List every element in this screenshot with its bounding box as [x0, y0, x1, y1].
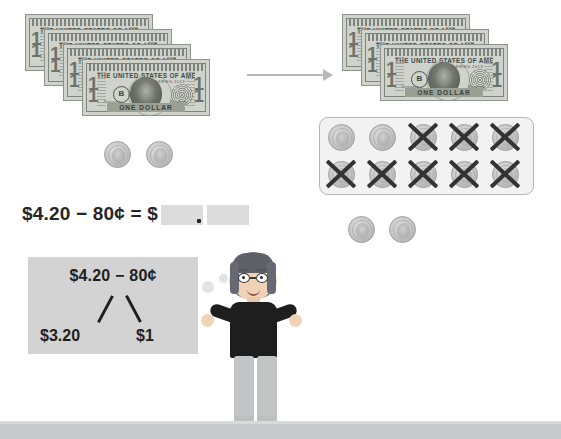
- leg-left: [234, 356, 254, 421]
- dime-coin: [348, 216, 375, 243]
- hand-left: [201, 314, 214, 327]
- dime-coin: [104, 141, 131, 168]
- cross-out-mark: [324, 157, 358, 191]
- torso: [230, 302, 277, 358]
- dollar-bill: THE UNITED STATES OF AMERICA B 1 1 1 1 B…: [380, 44, 508, 101]
- hair-side: [267, 262, 276, 294]
- cross-out-mark: [488, 157, 522, 191]
- eyebrow: [238, 269, 249, 271]
- eyebrow: [256, 269, 267, 271]
- decimal-point: [197, 219, 201, 223]
- dime-coin: [146, 141, 173, 168]
- cross-out-mark: [447, 157, 481, 191]
- number-bond-part-right: $1: [136, 327, 154, 345]
- equation-text: $4.20 − 80¢ = $: [22, 203, 158, 225]
- number-bond-branch-left: [97, 295, 113, 323]
- student-character: [196, 252, 308, 424]
- lesson-canvas: THE UNITED STATES OF AMERICA B 1 1 1 1 B…: [0, 0, 561, 439]
- cross-out-mark: [447, 120, 481, 154]
- dime-grid: [319, 117, 534, 195]
- cross-out-mark: [365, 157, 399, 191]
- glasses-bridge: [250, 277, 256, 279]
- number-bond-part-left: $3.20: [40, 327, 80, 345]
- cross-out-mark: [406, 157, 440, 191]
- cross-out-mark: [406, 120, 440, 154]
- dime-coin: [369, 124, 396, 151]
- leg-right: [257, 356, 277, 421]
- ground-bar: [0, 424, 561, 439]
- hand-right: [289, 314, 302, 327]
- dime-coin: [389, 216, 416, 243]
- number-bond-branch-right: [125, 295, 141, 323]
- cents-answer-input[interactable]: [207, 205, 249, 225]
- dime-coin: [328, 124, 355, 151]
- number-bond-expression: $4.20 − 80¢: [28, 267, 198, 285]
- cross-out-mark: [488, 120, 522, 154]
- number-bond-panel: $4.20 − 80¢ $3.20 $1: [28, 257, 198, 354]
- dollar-bill: THE UNITED STATES OF AMERICA B 1 1 1 1 B…: [82, 59, 210, 116]
